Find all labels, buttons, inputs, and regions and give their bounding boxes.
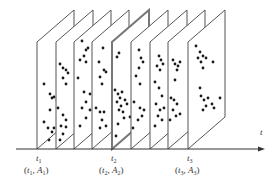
data-point: [116, 101, 119, 104]
data-point: [118, 52, 121, 55]
data-point: [101, 119, 104, 122]
data-point: [83, 91, 86, 94]
data-point: [179, 61, 182, 64]
data-point: [138, 67, 141, 70]
data-point: [207, 97, 210, 100]
data-point: [51, 131, 54, 134]
planes-group: [37, 10, 225, 149]
data-point: [67, 72, 70, 75]
data-point: [99, 111, 102, 114]
data-point: [49, 109, 52, 112]
data-point: [85, 117, 88, 120]
data-point: [142, 61, 145, 64]
data-point: [105, 125, 108, 128]
data-point: [95, 107, 98, 110]
data-point: [43, 83, 46, 86]
time-window-diagram: t t1(t1, A1)t2(t2, A2)t3(t3, A3): [0, 0, 275, 181]
data-point: [169, 119, 172, 122]
data-point: [200, 95, 203, 98]
arrow-head-icon: [258, 147, 265, 152]
data-point: [77, 77, 80, 80]
data-point: [211, 103, 214, 106]
data-point: [141, 115, 144, 118]
data-point: [103, 69, 106, 72]
data-point: [139, 107, 142, 110]
data-point: [176, 103, 179, 106]
data-point: [99, 76, 102, 79]
data-point: [154, 81, 157, 84]
data-point: [65, 119, 68, 122]
data-point: [116, 56, 119, 59]
data-point: [132, 127, 135, 130]
data-point: [122, 111, 125, 114]
data-point: [62, 114, 65, 117]
data-point: [163, 107, 166, 110]
data-point: [159, 69, 162, 72]
data-point: [65, 83, 68, 86]
data-point: [89, 93, 92, 96]
data-point: [59, 63, 62, 66]
time-pair-label-3: (t3, A3): [175, 165, 200, 176]
data-point: [53, 96, 56, 99]
data-point: [172, 109, 175, 112]
data-point: [162, 63, 165, 66]
data-point: [199, 87, 202, 90]
data-point: [175, 115, 178, 118]
data-point: [159, 109, 162, 112]
data-point: [172, 59, 175, 62]
data-point: [179, 113, 182, 116]
data-point: [43, 121, 46, 124]
data-point: [99, 127, 102, 130]
data-point: [202, 109, 205, 112]
data-point: [47, 127, 50, 130]
data-point: [123, 117, 126, 120]
data-point: [117, 93, 120, 96]
data-point: [199, 51, 202, 54]
data-point: [59, 139, 62, 142]
data-point: [212, 61, 215, 64]
data-point: [89, 109, 92, 112]
data-point: [203, 99, 206, 102]
data-point: [81, 107, 84, 110]
data-point: [62, 133, 65, 136]
data-point: [161, 119, 164, 122]
data-point: [126, 103, 129, 106]
data-point: [161, 95, 164, 98]
time-label-3: t3: [187, 153, 193, 164]
data-point: [62, 77, 65, 80]
data-point: [133, 101, 136, 104]
data-point: [202, 67, 205, 70]
data-point: [205, 57, 208, 60]
data-point: [154, 125, 157, 128]
axis-label: t: [260, 127, 263, 137]
data-point: [87, 47, 90, 50]
data-point: [62, 67, 65, 70]
data-point: [174, 63, 177, 66]
data-point: [102, 47, 105, 50]
data-point: [213, 107, 216, 110]
data-point: [140, 57, 143, 60]
data-point: [81, 40, 84, 43]
data-point: [83, 55, 86, 58]
data-point: [98, 61, 101, 64]
data-point: [138, 49, 141, 52]
time-pair-label-1: (t1, A1): [24, 165, 49, 176]
data-point: [195, 45, 198, 48]
data-point: [115, 135, 118, 138]
data-point: [85, 101, 88, 104]
data-point: [85, 61, 88, 64]
data-point: [205, 105, 208, 108]
data-point: [174, 79, 177, 82]
data-point: [124, 99, 127, 102]
data-point: [197, 57, 200, 60]
data-point: [177, 65, 180, 68]
data-point: [157, 115, 160, 118]
data-point: [79, 125, 82, 128]
data-point: [158, 55, 161, 58]
data-point: [101, 83, 104, 86]
data-point: [219, 97, 222, 100]
data-point: [121, 91, 124, 94]
time-label-2: t2: [111, 153, 117, 164]
data-point: [120, 105, 123, 108]
data-point: [49, 93, 52, 96]
